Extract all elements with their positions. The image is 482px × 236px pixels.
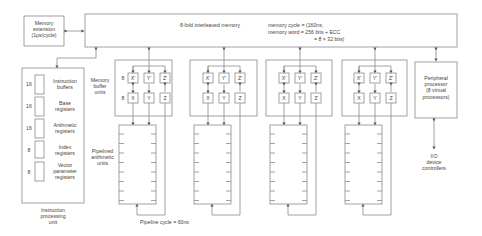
buffer-register-top: Y'	[295, 75, 305, 81]
buffer-register-bottom: Y	[295, 95, 305, 101]
buffer-register-bottom: Y	[144, 95, 154, 101]
reg-count: 16	[24, 81, 34, 87]
reg-base: Base registers	[46, 100, 84, 112]
buffer-register-top: X'	[279, 75, 289, 81]
unit-1	[119, 49, 170, 215]
buffer-register-bottom: Y	[219, 95, 229, 101]
buffer-register-bottom: Z	[235, 95, 245, 101]
buffer-register-top: Z'	[235, 75, 245, 81]
reg-count: 8	[24, 147, 34, 153]
buffer-register-top: X'	[354, 75, 364, 81]
buffer-register-bottom: X	[203, 95, 213, 101]
unit-3	[270, 49, 321, 215]
buffer-register-bottom: Z	[160, 95, 170, 101]
unit-2	[194, 49, 245, 215]
buffer-register-top: Y'	[370, 75, 380, 81]
buffer-register-bottom: Y	[370, 95, 380, 101]
reg-label: buffers	[46, 84, 84, 90]
buffer-count-top: 8	[120, 75, 126, 81]
buffer-register-top: Z'	[311, 75, 321, 81]
reg-label: registers	[46, 150, 84, 156]
buffer-register-top: Z'	[386, 75, 396, 81]
reg-instruction-buffers: Instruction buffers	[46, 78, 84, 90]
reg-vector-parameter: Vector parameter registers	[46, 162, 84, 181]
reg-count: 16	[24, 103, 34, 109]
memory-extension-line3: (1µs/cycle)	[24, 32, 64, 38]
reg-index: Index registers	[46, 144, 84, 156]
instruction-unit-caption: Instruction processing unit	[22, 207, 84, 226]
pipeline-cycle-text: Pipeline cycle = 60ns	[140, 219, 189, 225]
buffer-register-bottom: Z	[311, 95, 321, 101]
reg-count: 16	[24, 125, 34, 131]
buffer-register-bottom: X	[128, 95, 138, 101]
label-line: units	[86, 89, 114, 95]
buffer-register-top: X'	[128, 75, 138, 81]
io-controllers-label: I/O device controllers	[414, 153, 454, 172]
buffer-register-top: X'	[203, 75, 213, 81]
reg-arithmetic: Arithmetic registers	[46, 122, 84, 134]
buffer-register-bottom: X	[354, 95, 364, 101]
buffer-count-bottom: 8	[120, 95, 126, 101]
memory-buffer-label: Memory buffer units	[86, 77, 114, 96]
memory-extension-label: Memory extension (1µs/cycle)	[24, 20, 64, 39]
caption-line: unit	[22, 219, 84, 225]
label-line: processors)	[415, 94, 457, 100]
reg-label: registers	[46, 128, 84, 134]
buffer-register-top: Y'	[219, 75, 229, 81]
label-line: controllers	[414, 165, 454, 171]
main-memory-title: 8-fold interleaved memory	[180, 22, 240, 28]
buffer-register-bottom: Z	[386, 95, 396, 101]
buffer-register-top: Y'	[144, 75, 154, 81]
memory-cycle-text: memory cycle = (160ns;	[268, 22, 323, 28]
reg-count: 8	[24, 169, 34, 175]
diagram-canvas: (function(){ var svg = document.querySel…	[0, 0, 482, 236]
memory-word-text: memory word = 256 bits + ECC	[268, 29, 340, 35]
pipeline-label: Pipelined arithmetic units	[86, 148, 119, 167]
peripheral-processor-label: Peripheral processor (8 virtual processo…	[415, 75, 457, 100]
reg-label: registers	[46, 106, 84, 112]
unit-4	[345, 49, 396, 215]
buffer-register-top: Z'	[160, 75, 170, 81]
memory-word-bits: = 8 × 32 bits)	[314, 36, 344, 42]
label-line: units	[86, 160, 119, 166]
buffer-register-bottom: X	[279, 95, 289, 101]
reg-label: registers	[46, 174, 84, 180]
